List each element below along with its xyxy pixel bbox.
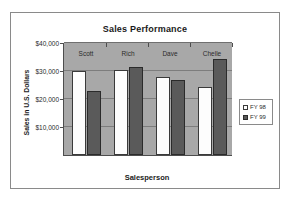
gridline-30000	[64, 70, 232, 71]
legend-swatch-icon	[243, 105, 248, 110]
y-axis-tick-label: $10,000	[36, 124, 60, 131]
chart-legend: FY 98 FY 99	[239, 99, 273, 125]
x-axis-tick	[232, 43, 233, 47]
legend-item-fy98: FY 98	[243, 103, 270, 111]
bar-chelle-fy98	[198, 87, 212, 155]
x-axis-category-label: Chelle	[203, 50, 221, 57]
bar-dave-fy99	[171, 80, 185, 155]
y-axis-tick-label: $40,000	[36, 40, 60, 47]
legend-label: FY 99	[250, 114, 266, 120]
x-axis-tick	[190, 43, 191, 47]
bar-chelle-fy99	[213, 59, 227, 155]
legend-label: FY 98	[250, 104, 266, 110]
y-axis-tick	[60, 43, 64, 44]
y-axis-tick	[60, 127, 64, 128]
y-axis-tick-label: $30,000	[36, 68, 60, 75]
y-axis-tick	[60, 71, 64, 72]
y-axis-tick	[60, 99, 64, 100]
plot-area: Scott Rich Dave Chelle	[63, 43, 232, 156]
x-axis-category-label: Scott	[79, 50, 94, 57]
bar-scott-fy98	[72, 71, 86, 155]
chart-frame: Sales Performance $40,000 $30,000 $20,00…	[10, 12, 280, 189]
bar-scott-fy99	[87, 91, 101, 155]
legend-swatch-icon	[243, 115, 248, 120]
legend-item-fy99: FY 99	[243, 113, 270, 121]
x-axis-category-label: Rich	[121, 50, 134, 57]
x-axis-category-label: Dave	[162, 50, 177, 57]
bar-dave-fy98	[156, 77, 170, 155]
x-axis-tick	[106, 43, 107, 47]
y-axis-tick-label: $20,000	[36, 96, 60, 103]
y-axis-title: Sales in U.S. Dollars	[23, 57, 30, 149]
x-axis-title: Salesperson	[63, 173, 231, 182]
bar-rich-fy99	[129, 67, 143, 155]
bar-rich-fy98	[114, 70, 128, 155]
value-axis-labels: $40,000 $30,000 $20,000 $10,000 Sales in…	[11, 13, 59, 190]
x-axis-tick	[148, 43, 149, 47]
